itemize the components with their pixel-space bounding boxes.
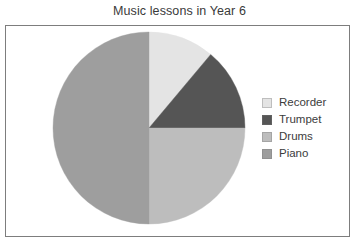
legend-label-piano: Piano — [279, 147, 308, 160]
legend-item-trumpet: Trumpet — [262, 111, 352, 128]
legend-item-piano: Piano — [262, 145, 352, 162]
pie-slice-piano — [53, 32, 149, 224]
legend-item-drums: Drums — [262, 128, 352, 145]
legend-label-drums: Drums — [279, 130, 313, 143]
pie-chart-figure: Music lessons in Year 6 Recorder Trumpet… — [0, 0, 359, 247]
legend-label-trumpet: Trumpet — [279, 113, 321, 126]
chart-legend: Recorder Trumpet Drums Piano — [262, 94, 352, 162]
legend-swatch-recorder — [262, 98, 272, 108]
legend-item-recorder: Recorder — [262, 94, 352, 111]
plot-frame: Recorder Trumpet Drums Piano — [5, 25, 350, 237]
legend-label-recorder: Recorder — [279, 96, 326, 109]
legend-swatch-piano — [262, 149, 272, 159]
chart-title: Music lessons in Year 6 — [0, 4, 359, 18]
pie-slice-drums — [149, 128, 245, 224]
legend-swatch-drums — [262, 132, 272, 142]
pie-slices — [53, 32, 245, 224]
legend-swatch-trumpet — [262, 115, 272, 125]
